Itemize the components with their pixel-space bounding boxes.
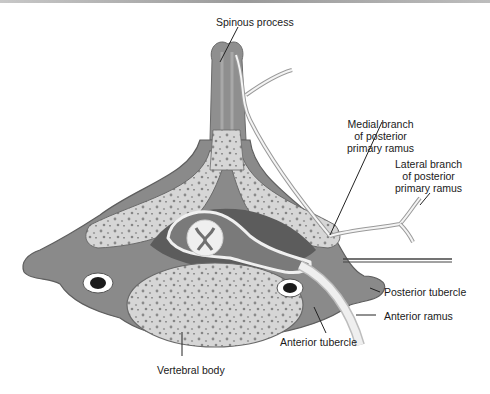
label-medial-branch: Medial branch of posterior primary ramus	[347, 118, 414, 154]
label-lateral-line-3: primary ramus	[395, 182, 462, 194]
label-medial-line-3: primary ramus	[347, 142, 414, 154]
label-anterior-ramus: Anterior ramus	[384, 310, 453, 322]
label-medial-line-2: of posterior	[347, 130, 414, 142]
vertebra-illustration	[0, 0, 490, 394]
label-medial-line-1: Medial branch	[347, 118, 414, 130]
label-spinous-process: Spinous process	[216, 16, 294, 28]
label-lateral-branch: Lateral branch of posterior primary ramu…	[395, 158, 462, 194]
label-vertebral-body: Vertebral body	[157, 364, 225, 376]
label-lateral-line-1: Lateral branch	[395, 158, 462, 170]
label-posterior-tubercle: Posterior tubercle	[384, 286, 466, 298]
vertebra-body-outline	[23, 130, 385, 347]
label-anterior-tubercle: Anterior tubercle	[280, 336, 357, 348]
label-lateral-line-2: of posterior	[395, 170, 462, 182]
spinous-process-shape	[210, 42, 246, 140]
